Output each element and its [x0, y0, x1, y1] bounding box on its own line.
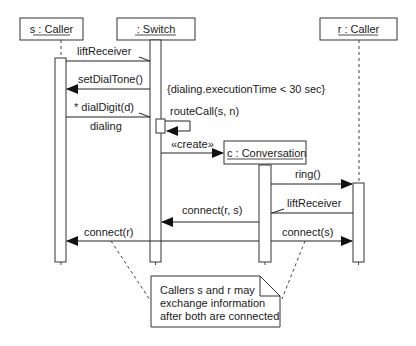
svg-text:«create»: «create»	[171, 138, 214, 150]
lifeline-s-caller: s : Caller	[20, 18, 83, 268]
dialing-mark: dialing	[90, 120, 122, 132]
message-ring: ring()	[271, 168, 352, 184]
sequence-diagram: s : Caller : Switch r : Caller c : Conve…	[0, 0, 416, 346]
note-anchor-line	[111, 241, 150, 300]
svg-text:* dialDigit(d): * dialDigit(d)	[74, 101, 134, 113]
message-lift-receiver-2: liftReceiver	[271, 197, 353, 213]
object-label-r-caller: r : Caller	[338, 23, 380, 35]
svg-text:connect(s): connect(s)	[282, 226, 333, 238]
message-connect-s: connect(s)	[271, 226, 352, 241]
note-line: Callers s and r may	[160, 284, 255, 296]
message-create: «create»	[161, 138, 223, 153]
message-lift-receiver-1: liftReceiver	[66, 45, 150, 61]
svg-text:setDialTone(): setDialTone()	[78, 73, 143, 85]
activation-bar	[353, 183, 364, 262]
message-set-dial-tone: setDialTone()	[67, 73, 150, 89]
message-route-call: routeCall(s, n)	[165, 105, 239, 131]
note-line: exchange information	[160, 297, 265, 309]
timing-constraint: {dialing.executionTime < 30 sec}	[167, 83, 326, 95]
message-connect-r-s: connect(r, s)	[162, 204, 259, 222]
activation-bar	[259, 165, 271, 262]
message-dial-digit: * dialDigit(d)	[66, 101, 150, 117]
activation-bar	[55, 58, 66, 262]
object-label-switch: : Switch	[137, 23, 176, 35]
svg-text:connect(r, s): connect(r, s)	[182, 204, 243, 216]
svg-text:routeCall(s, n): routeCall(s, n)	[170, 105, 239, 117]
note: Callers s and r may exchange information…	[111, 241, 305, 327]
svg-text:liftReceiver: liftReceiver	[77, 45, 132, 57]
message-connect-r: connect(r)	[67, 226, 259, 241]
svg-text:liftReceiver: liftReceiver	[287, 197, 342, 209]
self-call-activation	[156, 119, 165, 133]
svg-text:ring(): ring()	[295, 168, 321, 180]
note-anchor-line	[282, 241, 305, 299]
object-label-s-caller: s : Caller	[30, 23, 74, 35]
note-line: after both are connected	[160, 310, 279, 322]
svg-text:connect(r): connect(r)	[84, 226, 134, 238]
activation-bar	[150, 40, 161, 262]
object-label-c-conversation: c : Conversation	[227, 147, 306, 159]
